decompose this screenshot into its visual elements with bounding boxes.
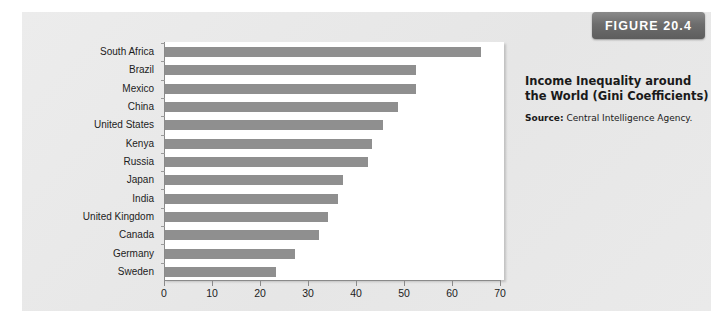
y-axis-label: Canada	[119, 229, 154, 240]
x-axis-tick-label: 70	[494, 287, 506, 299]
x-axis-tick	[500, 281, 501, 286]
bar-fill	[165, 47, 481, 57]
y-axis-labels: South AfricaBrazilMexicoChinaUnited Stat…	[42, 42, 160, 280]
bar-mexico	[165, 84, 416, 94]
y-axis-label: Brazil	[129, 64, 154, 75]
y-axis-tick	[161, 61, 165, 62]
figure-caption: Income Inequality around the World (Gini…	[525, 74, 711, 124]
bar-fill	[165, 120, 383, 130]
x-axis-tick-label: 50	[398, 287, 410, 299]
y-axis-tick	[161, 226, 165, 227]
x-axis-tick-label: 30	[302, 287, 314, 299]
bar-fill	[165, 230, 319, 240]
x-axis-tick-label: 60	[446, 287, 458, 299]
y-axis-tick	[161, 43, 165, 44]
x-axis-tick-label: 0	[161, 287, 167, 299]
source-text: Central Intelligence Agency.	[564, 113, 693, 123]
x-axis: 010203040506070	[164, 280, 504, 306]
bar-united-states	[165, 120, 383, 130]
bar-fill	[165, 194, 338, 204]
y-axis-label: Japan	[127, 174, 154, 185]
y-axis-tick	[161, 263, 165, 264]
bars-layer	[165, 42, 504, 280]
y-axis-label: Mexico	[122, 83, 154, 94]
bar-fill	[165, 102, 398, 112]
caption-source: Source: Central Intelligence Agency.	[525, 112, 711, 124]
bar-south-africa	[165, 47, 481, 57]
x-axis-tick	[212, 281, 213, 286]
y-axis-tick	[161, 80, 165, 81]
y-axis-tick	[161, 116, 165, 117]
bar-brazil	[165, 65, 416, 75]
bar-kenya	[165, 139, 372, 149]
y-axis-label: India	[132, 193, 154, 204]
y-axis-label: Kenya	[126, 138, 154, 149]
bar-russia	[165, 157, 368, 167]
y-axis-tick	[161, 208, 165, 209]
plot-area: South AfricaBrazilMexicoChinaUnited Stat…	[164, 42, 504, 280]
y-axis-tick	[161, 135, 165, 136]
bar-china	[165, 102, 398, 112]
x-axis-tick-label: 10	[206, 287, 218, 299]
bar-fill	[165, 139, 372, 149]
y-axis-label: Germany	[113, 248, 154, 259]
bar-fill	[165, 212, 328, 222]
bar-germany	[165, 249, 295, 259]
figure-number-label: FIGURE 20.4	[605, 19, 692, 33]
bar-fill	[165, 65, 416, 75]
x-axis-line	[164, 280, 501, 281]
y-axis-label: Sweden	[118, 266, 154, 277]
caption-title: Income Inequality around the World (Gini…	[525, 74, 711, 104]
figure-number-badge: FIGURE 20.4	[592, 12, 705, 39]
bar-japan	[165, 175, 343, 185]
bar-fill	[165, 249, 295, 259]
y-axis-label: United States	[94, 119, 154, 130]
x-axis-tick	[260, 281, 261, 286]
y-axis-tick	[161, 244, 165, 245]
y-axis-label: United Kingdom	[83, 211, 154, 222]
bar-canada	[165, 230, 319, 240]
y-axis-tick	[161, 153, 165, 154]
source-label: Source:	[525, 113, 564, 123]
bar-sweden	[165, 267, 276, 277]
x-axis-tick	[356, 281, 357, 286]
x-axis-tick	[164, 281, 165, 286]
x-axis-tick	[404, 281, 405, 286]
y-axis-tick	[161, 171, 165, 172]
x-axis-tick	[308, 281, 309, 286]
y-axis-label: South Africa	[100, 46, 154, 57]
y-axis-tick	[161, 189, 165, 190]
y-axis-tick	[161, 98, 165, 99]
x-axis-tick-label: 20	[254, 287, 266, 299]
bar-united-kingdom	[165, 212, 328, 222]
figure-panel: FIGURE 20.4 South AfricaBrazilMexicoChin…	[22, 12, 711, 311]
y-axis-label: Russia	[123, 156, 154, 167]
x-axis-tick	[452, 281, 453, 286]
bar-fill	[165, 267, 276, 277]
x-axis-tick-label: 40	[350, 287, 362, 299]
bar-fill	[165, 84, 416, 94]
bar-chart: South AfricaBrazilMexicoChinaUnited Stat…	[142, 30, 502, 280]
y-axis-label: China	[128, 101, 154, 112]
bar-fill	[165, 175, 343, 185]
bar-india	[165, 194, 338, 204]
bar-fill	[165, 157, 368, 167]
